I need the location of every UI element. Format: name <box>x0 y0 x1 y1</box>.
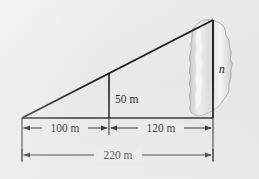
dimension-label-120m: 120 m <box>146 122 175 134</box>
diagram-svg: 100 m 120 m 220 m 50 m n <box>0 0 259 179</box>
figure-canvas: 100 m 120 m 220 m 50 m n <box>0 0 259 179</box>
dimension-label-220m: 220 m <box>103 149 132 161</box>
pole-height-label: 50 m <box>115 93 138 105</box>
unknown-height-label: n <box>219 63 225 75</box>
dimension-label-100m: 100 m <box>50 122 79 134</box>
